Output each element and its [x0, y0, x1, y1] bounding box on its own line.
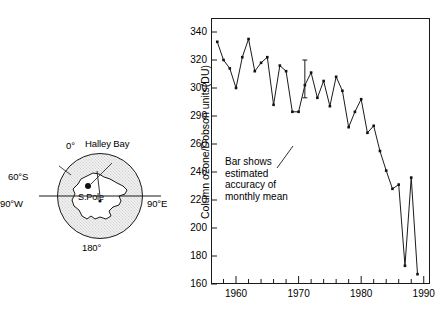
map-label-0-degrees: 0°: [66, 140, 75, 151]
y-tick-label: 260: [177, 139, 207, 149]
y-tick-label: 290: [177, 111, 207, 121]
map-label-60s: 60°S: [8, 171, 28, 182]
ozone-timeseries-chart: Column ozone/Dobson units(DU) 3403203002…: [160, 8, 443, 308]
x-tick-label: 1970: [279, 288, 319, 299]
x-tick-label: 1980: [341, 288, 381, 299]
halley-bay-marker: [85, 183, 91, 189]
y-tick-label: 160: [177, 279, 207, 289]
map-label-180: 180°: [82, 242, 101, 253]
y-tick-label: 240: [177, 167, 207, 177]
y-tick-label: 340: [177, 27, 207, 37]
y-tick-label: 320: [177, 55, 207, 65]
plot-area: [211, 18, 430, 284]
y-tick-label: 180: [177, 251, 207, 261]
y-tick-label: 200: [177, 223, 207, 233]
latitude-60s-leader-line: [59, 166, 71, 175]
map-label-south-pole: S.Pole: [78, 192, 104, 202]
y-axis-tick-labels: 340320300290260240220200180160: [174, 8, 207, 294]
annotation-text: Bar shows estimated accuracy of monthly …: [225, 156, 288, 202]
y-tick-label: 220: [177, 195, 207, 205]
map-label-90w: 90°W: [0, 198, 23, 209]
x-tick-label: 1990: [404, 288, 443, 299]
map-label-halley-bay: Halley Bay: [85, 138, 129, 149]
y-tick-label: 300: [177, 83, 207, 93]
x-tick-label: 1960: [216, 288, 256, 299]
